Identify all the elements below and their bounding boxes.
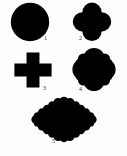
shape-5-label: 5 [52, 138, 55, 144]
scalloped-diamond-icon [30, 96, 98, 143]
shape-2-label: 2 [79, 35, 82, 41]
shape-2-quatrefoil [68, 1, 116, 43]
shape-3-label: 3 [43, 85, 46, 91]
shape-4-ornate-quatrefoil [70, 47, 118, 92]
shape-5-scalloped-diamond [30, 96, 98, 143]
greek-cross-icon [12, 51, 54, 89]
quatrefoil-icon [68, 1, 116, 43]
geometric-shapes-figure: 1 2 3 [0, 0, 127, 156]
shape-1-label: 1 [44, 35, 47, 41]
shape-4-label: 4 [79, 86, 82, 92]
shape-3-greek-cross [12, 51, 54, 89]
ornate-quatrefoil-icon [70, 47, 118, 92]
